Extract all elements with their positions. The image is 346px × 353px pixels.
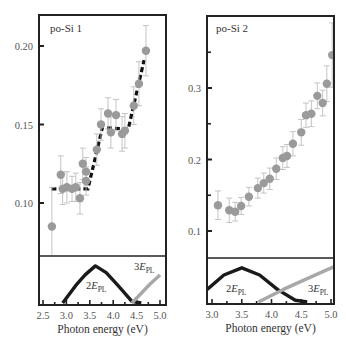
data-point xyxy=(72,183,80,191)
data-point xyxy=(328,51,336,59)
data-point xyxy=(76,194,84,202)
label-3e-pl: 3EPL xyxy=(134,261,155,275)
x-tick-label: 4.0 xyxy=(107,310,120,321)
x-tick-label: 3.5 xyxy=(235,309,248,320)
y-tick-label: 0.2 xyxy=(188,155,201,166)
x-tick-label: 2.5 xyxy=(36,310,49,321)
data-point xyxy=(272,165,280,173)
label-2e-pl: 2EPL xyxy=(86,280,107,294)
data-point xyxy=(323,80,331,88)
data-point xyxy=(245,192,253,200)
data-point xyxy=(130,101,138,109)
data-point xyxy=(307,110,315,118)
plot-area xyxy=(48,26,150,266)
x-tick-label: 5.0 xyxy=(153,310,166,321)
x-tick-label: 4.5 xyxy=(130,310,143,321)
curve-3e-pl xyxy=(132,275,160,303)
data-point xyxy=(79,160,87,168)
data-point xyxy=(107,128,115,136)
data-point xyxy=(214,201,222,209)
y-tick-label: 0.20 xyxy=(15,41,33,52)
label-3e-pl: 3EPL xyxy=(308,283,329,297)
data-point xyxy=(93,145,101,153)
data-point xyxy=(82,167,90,175)
x-axis-title: Photon energy (eV) xyxy=(57,323,148,336)
x-tick-label: 3.0 xyxy=(60,310,73,321)
data-point xyxy=(318,99,326,107)
panel-title: po-Si 1 xyxy=(50,22,82,34)
panel-po-si-2: po-Si 20.10.20.33.03.54.04.55.0Photon en… xyxy=(188,16,338,335)
data-point xyxy=(297,128,305,136)
data-point xyxy=(237,202,245,210)
panel-title: po-Si 2 xyxy=(216,22,248,34)
y-tick-label: 0.15 xyxy=(15,120,33,131)
y-tick-label: 0.10 xyxy=(15,198,33,209)
data-point xyxy=(313,92,321,100)
plot-frame xyxy=(39,15,166,305)
data-point xyxy=(48,222,56,230)
data-point xyxy=(97,120,105,128)
data-point xyxy=(57,171,65,179)
data-point xyxy=(142,47,150,55)
chart-figure: po-Si 10.100.150.202.53.03.54.04.55.0Pho… xyxy=(0,0,346,353)
data-point xyxy=(104,109,112,117)
x-tick-label: 5.0 xyxy=(324,309,337,320)
plot-area xyxy=(214,23,337,222)
x-tick-label: 4.5 xyxy=(295,309,308,320)
label-2e-pl: 2EPL xyxy=(226,283,247,297)
y-tick-label: 0.3 xyxy=(188,83,201,94)
panel-po-si-1: po-Si 10.100.150.202.53.03.54.04.55.0Pho… xyxy=(15,15,167,336)
x-tick-label: 3.5 xyxy=(83,310,96,321)
plot-frame xyxy=(207,16,334,304)
y-tick-label: 0.1 xyxy=(188,226,201,237)
data-point xyxy=(266,175,274,183)
x-axis-title: Photon energy (eV) xyxy=(225,322,316,335)
data-point xyxy=(112,111,120,119)
data-point xyxy=(289,140,297,148)
data-point xyxy=(283,152,291,160)
data-point xyxy=(82,177,90,185)
x-tick-label: 4.0 xyxy=(265,309,278,320)
data-point xyxy=(135,79,143,87)
x-tick-label: 3.0 xyxy=(205,309,218,320)
data-point xyxy=(121,127,129,135)
